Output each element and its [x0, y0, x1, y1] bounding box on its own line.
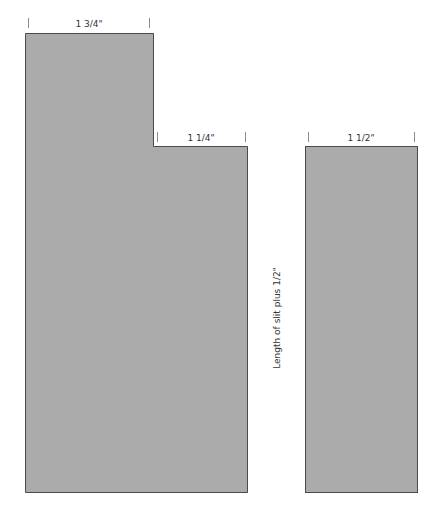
- pattern-diagram: 1 3/4" 1 1/4" 1 1/2" Length of slit plus…: [0, 0, 436, 519]
- top-width-label: 1 3/4": [75, 19, 102, 29]
- length-label: Length of slit plus 1/2": [272, 267, 282, 369]
- left-pattern-piece: [26, 34, 248, 493]
- step-width-label: 1 1/4": [187, 133, 214, 143]
- right-pattern-piece: [306, 147, 418, 493]
- right-width-label: 1 1/2": [347, 133, 374, 143]
